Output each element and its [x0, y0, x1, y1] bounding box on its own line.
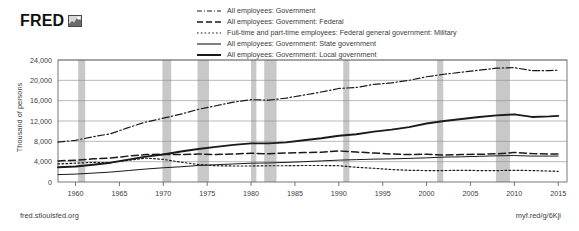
series-line: [58, 158, 558, 171]
source-link[interactable]: fred.stlouisfed.org: [20, 211, 79, 220]
chart-header: FRED All employees: Government All emplo…: [0, 0, 579, 62]
x-tick-label: 1980: [243, 189, 259, 198]
y-tick-label: 20,000: [30, 76, 52, 85]
legend-swatch-solid-thin: [196, 39, 222, 49]
legend-label: Full-time and part-time employees: Feder…: [227, 28, 457, 38]
x-tick-label: 1965: [111, 189, 127, 198]
y-tick-label: 8,000: [34, 137, 52, 146]
fred-chart-card: FRED All employees: Government All emplo…: [0, 0, 579, 231]
legend-label: All employees: Government: [227, 6, 315, 16]
x-tick-label: 1995: [375, 189, 391, 198]
legend-label: All employees: Government: Federal: [227, 17, 344, 27]
y-tick-label: 24,000: [30, 56, 52, 65]
y-tick-label: 0: [48, 178, 52, 187]
fred-brand: FRED: [20, 13, 82, 29]
y-tick-label: 16,000: [30, 96, 52, 105]
legend-item: Full-time and part-time employees: Feder…: [196, 28, 457, 38]
legend-swatch-dash-dot: [196, 6, 222, 16]
legend-item: All employees: Government: Federal: [196, 17, 457, 27]
series-line: [58, 68, 558, 143]
y-axis-title: Thousand of persons: [15, 58, 24, 178]
x-tick-label: 1975: [199, 189, 215, 198]
chart-thumbnail-icon: [68, 15, 82, 27]
series-line: [58, 114, 558, 167]
legend-swatch-dashed: [196, 17, 222, 27]
legend-item: All employees: Government: State governm…: [196, 39, 457, 49]
chart-legend: All employees: Government All employees:…: [196, 6, 457, 60]
x-tick-label: 2015: [550, 189, 566, 198]
chart-footer: fred.stlouisfed.org myf.red/g/6Kji: [0, 211, 579, 225]
x-tick-label: 1970: [155, 189, 171, 198]
shortlink[interactable]: myf.red/g/6Kji: [516, 211, 561, 220]
legend-label: All employees: Government: State governm…: [227, 39, 376, 49]
x-tick-label: 2010: [506, 189, 522, 198]
legend-item: All employees: Government: [196, 6, 457, 16]
x-tick-label: 2000: [419, 189, 435, 198]
x-tick-label: 1985: [287, 189, 303, 198]
chart-plot-area: Thousand of persons 04,0008,00012,00016,…: [0, 56, 579, 206]
fred-wordmark: FRED: [20, 13, 64, 29]
x-tick-label: 2005: [462, 189, 478, 198]
x-tick-label: 1960: [68, 189, 84, 198]
legend-swatch-dotted: [196, 28, 222, 38]
y-tick-label: 4,000: [34, 157, 52, 166]
x-tick-label: 1990: [331, 189, 347, 198]
y-tick-label: 12,000: [30, 117, 52, 126]
line-chart: 04,0008,00012,00016,00020,00024,00019601…: [0, 56, 579, 206]
